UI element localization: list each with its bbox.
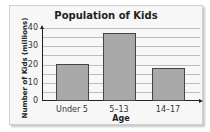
x-axis-label: Age	[42, 114, 200, 123]
x-tick-label: 14–17	[148, 105, 188, 114]
chart-title: Population of Kids	[10, 10, 202, 21]
plot-area: 010203040Under 55–1314–17	[42, 28, 200, 101]
chart-frame: Population of Kids Number of Kids (milli…	[9, 5, 203, 125]
y-tick-label: 30	[26, 42, 38, 50]
bar	[103, 33, 136, 101]
bar	[152, 68, 185, 101]
y-axis-arrow-icon	[40, 25, 44, 29]
y-axis	[42, 28, 43, 101]
y-tick-label: 20	[26, 61, 38, 69]
bar	[56, 64, 89, 101]
gridline	[42, 28, 200, 29]
y-tick-label: 10	[26, 79, 38, 87]
x-axis-arrow-icon	[199, 99, 203, 103]
x-tick-label: 5–13	[99, 105, 139, 114]
y-tick-label: 0	[26, 97, 38, 105]
x-tick-label: Under 5	[52, 105, 92, 114]
y-tick-label: 40	[26, 24, 38, 32]
